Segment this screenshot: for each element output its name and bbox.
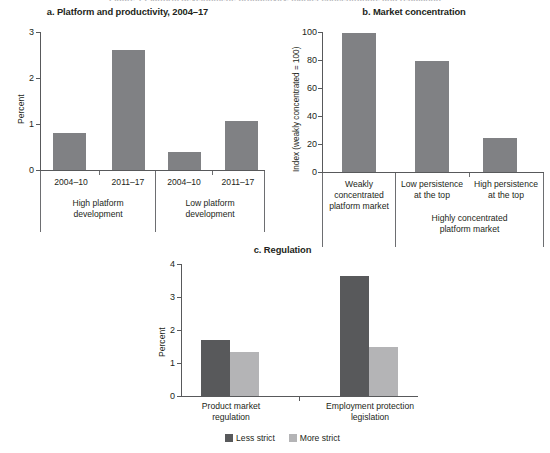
legend-label-less-strict: Less strict <box>236 433 275 443</box>
panel-b-ytick-40: 40 <box>295 111 317 121</box>
legend-swatch-more-strict <box>289 434 297 442</box>
panel-b-cat-inner-tick <box>469 173 470 177</box>
panel-b-cat-1-line1: Weakly <box>323 179 395 190</box>
panel-b-ytick-80: 80 <box>295 55 317 65</box>
panel-c-cat-2-line1: Employment protection <box>308 401 432 412</box>
panel-a-group-2-line2: development <box>155 209 265 220</box>
panel-a-ytick-3: 3 <box>20 27 34 37</box>
panel-a-group-2-line1: Low platform <box>155 198 265 209</box>
panel-a: a. Platform and productivity, 2004–17 Pe… <box>0 6 275 236</box>
panel-c-ytick-2: 2 <box>161 325 175 335</box>
panel-a-ytick-0: 0 <box>20 165 34 175</box>
panel-a-y-axis <box>40 32 41 171</box>
panel-c-tick-4 <box>177 264 181 265</box>
legend-swatch-less-strict <box>225 434 233 442</box>
panel-a-group-1-line1: High platform <box>40 198 156 209</box>
panel-a-cat-1: 2004–10 <box>44 177 98 188</box>
panel-a-ytick-1: 1 <box>20 119 34 129</box>
panel-c-y-axis <box>181 264 182 397</box>
panel-b-tick-100 <box>318 32 322 33</box>
panel-c-tick-3 <box>177 297 181 298</box>
bar-a-3 <box>168 152 201 170</box>
panel-b-ylabel: Index (weakly concentrated = 100) <box>292 47 301 172</box>
panel-a-tick-3 <box>36 32 40 33</box>
panel-c-cat-1-line2: regulation <box>176 412 286 423</box>
panel-b-ytick-20: 20 <box>295 139 317 149</box>
panel-c-ytick-4: 4 <box>161 259 175 269</box>
panel-b-tick-60 <box>318 88 322 89</box>
panel-c-x-tick-mid <box>299 397 300 401</box>
panel-b-cat-2-line1: Low persistence <box>394 179 470 190</box>
panel-b-group-2-line1: Highly concentrated <box>395 213 544 224</box>
panel-a-title: a. Platform and productivity, 2004–17 <box>0 6 265 17</box>
panel-a-cat-inner-tick <box>99 171 100 175</box>
panel-b-ytick-0: 0 <box>295 167 317 177</box>
panel-a-group-1-line2: development <box>40 209 156 220</box>
bar-c-g1-more-strict <box>230 352 259 396</box>
bar-c-g2-less-strict <box>340 276 369 396</box>
panel-a-cat-4: 2011–17 <box>211 177 265 188</box>
panel-c-ytick-0: 0 <box>161 391 175 401</box>
panel-b-y-axis <box>322 32 323 172</box>
panel-b-cat-1-line2: concentrated <box>323 190 395 201</box>
panel-a-cat-inner-tick-2 <box>212 171 213 175</box>
panel-b-tick-80 <box>318 60 322 61</box>
panel-b-tick-20 <box>318 144 322 145</box>
panel-a-ytick-2: 2 <box>20 73 34 83</box>
panel-a-cat-2: 2011–17 <box>101 177 155 188</box>
panel-b-ytick-60: 60 <box>295 83 317 93</box>
panel-b-cat-1-line3: platform market <box>323 201 395 212</box>
panel-c: c. Regulation Percent 4 3 2 1 0 Product … <box>140 244 425 453</box>
bar-a-4 <box>225 121 258 170</box>
figure-container: Figure 1 Platform development, productiv… <box>0 0 550 453</box>
panel-b-group-2-line2: platform market <box>395 224 544 235</box>
legend-item-more-strict: More strict <box>289 433 340 443</box>
panel-c-title: c. Regulation <box>140 244 425 255</box>
panel-b-x-axis <box>322 172 544 173</box>
panel-b-cat-3-line1: High persistence <box>468 179 544 190</box>
panel-a-cat-3: 2004–10 <box>157 177 211 188</box>
panel-c-ytick-3: 3 <box>161 292 175 302</box>
bar-b-3 <box>483 138 517 172</box>
panel-b-cat-2-line2: at the top <box>394 190 470 201</box>
panel-c-cat-2-line2: legislation <box>308 412 432 423</box>
bar-c-g1-less-strict <box>201 340 230 396</box>
panel-c-tick-2 <box>177 330 181 331</box>
panel-a-tick-2 <box>36 78 40 79</box>
legend-label-more-strict: More strict <box>300 433 340 443</box>
panel-b: b. Market concentration Index (weakly co… <box>278 6 550 246</box>
bar-b-2 <box>415 61 449 172</box>
panel-a-x-axis <box>40 170 265 171</box>
panel-c-ytick-1: 1 <box>161 358 175 368</box>
bar-a-1 <box>53 133 86 170</box>
bar-a-2 <box>112 50 145 170</box>
bar-b-1 <box>342 33 376 172</box>
panel-a-tick-1 <box>36 124 40 125</box>
running-head: Figure 1 Platform development, productiv… <box>0 0 550 1</box>
panel-b-title: b. Market concentration <box>278 6 550 17</box>
panel-b-ytick-100: 100 <box>295 27 317 37</box>
panel-c-cat-1-line1: Product market <box>176 401 286 412</box>
bar-c-g2-more-strict <box>369 347 398 396</box>
panel-b-tick-40 <box>318 116 322 117</box>
panel-b-cat-3-line2: at the top <box>468 190 544 201</box>
panel-c-tick-1 <box>177 363 181 364</box>
panel-c-legend: Less strict More strict <box>140 433 425 443</box>
legend-item-less-strict: Less strict <box>225 433 275 443</box>
